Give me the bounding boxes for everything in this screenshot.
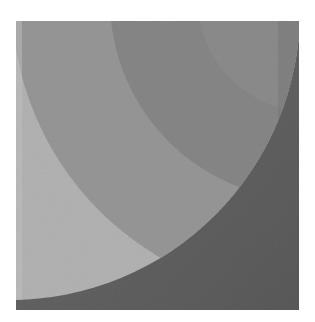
abstract-arc-image — [16, 21, 299, 310]
arc-graphic — [16, 21, 299, 310]
